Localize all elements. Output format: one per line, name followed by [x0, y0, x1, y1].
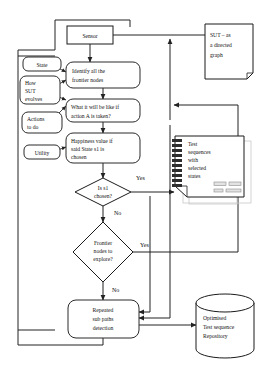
node-actions-to-do-line2: to do: [27, 124, 39, 130]
node-repeated-sub-paths-line2: sub paths: [93, 316, 114, 322]
node-is-s1-chosen-line2: chosen?: [94, 193, 113, 199]
edge-label-is-s1-yes: Yes: [136, 175, 145, 181]
node-sut-directed-graph-line1: SUT – as: [210, 32, 231, 38]
flowchart-canvas: Sensor State How SUT evolves Actions to …: [0, 0, 261, 367]
node-repeated-sub-paths-line1: Repeated: [93, 307, 114, 313]
node-utility-label: Utility: [35, 150, 50, 156]
node-frontier-nodes-explore[interactable]: Frontier nodes to explore?: [73, 222, 133, 282]
node-what-if-action-line1: What it will be like if: [71, 104, 119, 110]
node-state[interactable]: State: [23, 57, 61, 71]
node-how-sut-evolves-line2: SUT: [25, 88, 36, 94]
node-happiness-value-line2: said State s1 is: [71, 146, 104, 152]
node-test-sequences-note-line4: selected: [188, 165, 206, 171]
node-state-label: State: [36, 62, 48, 68]
node-test-sequences-note-line1: Test: [188, 141, 198, 147]
node-sensor[interactable]: Sensor: [67, 26, 113, 44]
node-happiness-value-line3: chosen: [71, 154, 87, 160]
node-how-sut-evolves-line3: evolves: [25, 96, 42, 102]
node-how-sut-evolves-line1: How: [25, 80, 37, 86]
node-is-s1-chosen-line1: Is s1: [98, 185, 109, 191]
node-repository-line2: Test sequence: [203, 324, 235, 330]
node-identify-frontier-line2: frontier nodes: [72, 77, 103, 83]
node-utility[interactable]: Utility: [24, 145, 60, 159]
node-sut-directed-graph[interactable]: SUT – as a directed graph: [205, 24, 253, 79]
node-repository-line1: Optimised: [203, 315, 227, 321]
node-how-sut-evolves[interactable]: How SUT evolves: [20, 76, 60, 104]
node-sensor-label: Sensor: [82, 33, 97, 39]
node-frontier-nodes-explore-line1: Frontier: [94, 240, 112, 246]
edge-notes-down-to-repeated: [139, 196, 150, 312]
node-actions-to-do-line1: Actions: [27, 116, 44, 122]
node-happiness-value-line1: Happiness value if: [71, 138, 113, 144]
node-frontier-nodes-explore-line2: nodes to: [94, 248, 113, 254]
node-actions-to-do[interactable]: Actions to do: [22, 112, 62, 133]
node-identify-frontier[interactable]: Identify all the frontier nodes: [66, 62, 140, 88]
edge-label-is-s1-no: No: [114, 210, 121, 216]
edge-rail-down-to-repeated: [139, 125, 170, 318]
node-test-sequences-note[interactable]: Test sequences with selected states: [172, 136, 251, 204]
node-repeated-sub-paths[interactable]: Repeated sub paths detection: [68, 300, 139, 338]
node-what-if-action-line2: action A is taken?: [71, 113, 111, 119]
node-test-sequences-note-line3: with: [188, 157, 198, 163]
edge-label-frontier-yes: Yes: [140, 242, 149, 248]
node-is-s1-chosen[interactable]: Is s1 chosen?: [75, 178, 131, 206]
node-sut-directed-graph-line3: graph: [210, 52, 223, 58]
node-identify-frontier-line1: Identify all the: [72, 68, 105, 74]
node-test-sequences-note-line2: sequences: [188, 149, 211, 155]
node-what-if-action[interactable]: What it will be like if action A is take…: [66, 99, 140, 122]
node-sut-directed-graph-line2: a directed: [210, 42, 232, 48]
node-repository[interactable]: Optimised Test sequence Repository: [196, 294, 254, 358]
node-test-sequences-note-line5: states: [188, 173, 200, 179]
edge-label-frontier-no: No: [112, 287, 119, 293]
node-repeated-sub-paths-line3: detection: [93, 325, 114, 331]
node-frontier-nodes-explore-line3: explore?: [93, 256, 113, 262]
node-repository-line3: Repository: [203, 333, 228, 339]
node-happiness-value[interactable]: Happiness value if said State s1 is chos…: [66, 133, 140, 163]
